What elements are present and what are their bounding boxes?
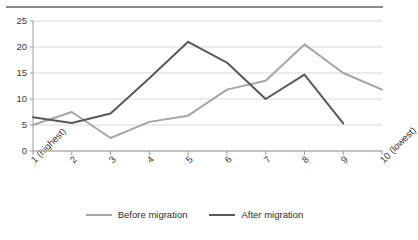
legend-item-before-migration: Before migration [86,210,188,220]
series-line-before-migration [33,44,382,138]
legend-label-before-migration: Before migration [118,210,188,220]
legend-swatch-after-migration [209,214,235,217]
legend-swatch-before-migration [86,214,112,217]
series-line-after-migration [33,42,343,124]
legend-item-after-migration: After migration [209,210,303,220]
legend-label-after-migration: After migration [241,210,303,220]
chart-legend: Before migration After migration [0,210,389,220]
